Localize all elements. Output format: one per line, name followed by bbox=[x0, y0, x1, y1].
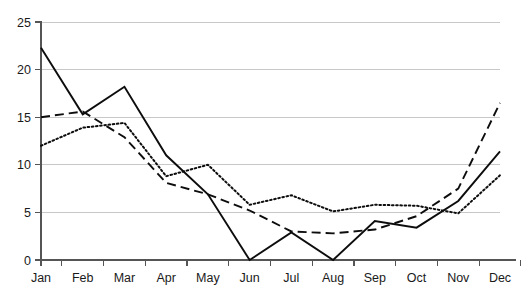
x-tick-label-Dec: Dec bbox=[489, 271, 511, 285]
x-tick-label-Oct: Oct bbox=[407, 271, 427, 285]
y-tick-label-0: 0 bbox=[24, 254, 31, 268]
x-tick-label-Jul: Jul bbox=[283, 271, 299, 285]
x-tick-label-Mar: Mar bbox=[114, 271, 136, 285]
series-lines bbox=[41, 48, 500, 260]
chart-canvas: 0510152025 JanFebMarAprMayJunJulAugSepOc… bbox=[0, 0, 527, 299]
y-tick-label-10: 10 bbox=[17, 158, 31, 172]
series-dashed bbox=[41, 103, 500, 233]
series-dotted bbox=[41, 123, 500, 213]
x-axis bbox=[41, 260, 521, 266]
y-tick-label-25: 25 bbox=[17, 16, 31, 30]
x-tick-label-May: May bbox=[196, 271, 220, 285]
x-tick-label-Jun: Jun bbox=[240, 271, 260, 285]
series-solid bbox=[41, 48, 500, 260]
x-tick-label-Aug: Aug bbox=[322, 271, 344, 285]
gridlines bbox=[41, 22, 500, 212]
y-tick-label-15: 15 bbox=[17, 111, 31, 125]
x-tick-label-Nov: Nov bbox=[447, 271, 470, 285]
y-axis bbox=[35, 21, 41, 260]
y-tick-label-5: 5 bbox=[24, 206, 31, 220]
x-tick-label-Feb: Feb bbox=[72, 271, 94, 285]
y-tick-label-20: 20 bbox=[17, 63, 31, 77]
y-tick-labels: 0510152025 bbox=[17, 16, 31, 268]
line-chart: 0510152025 JanFebMarAprMayJunJulAugSepOc… bbox=[0, 0, 527, 299]
x-tick-label-Sep: Sep bbox=[364, 271, 386, 285]
x-tick-label-Apr: Apr bbox=[156, 271, 175, 285]
x-tick-labels: JanFebMarAprMayJunJulAugSepOctNovDec bbox=[31, 271, 511, 285]
x-tick-label-Jan: Jan bbox=[31, 271, 51, 285]
